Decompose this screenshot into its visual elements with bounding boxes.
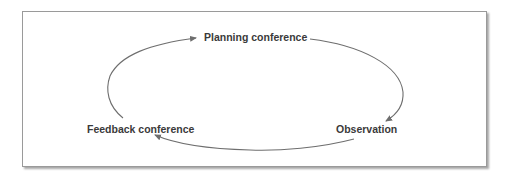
arrow-feedback-to-planning: [108, 38, 196, 118]
node-planning-conference: Planning conference: [204, 31, 307, 43]
cycle-arrows: [0, 0, 509, 180]
node-observation: Observation: [336, 123, 397, 135]
arrow-observation-to-feedback: [155, 135, 354, 150]
node-feedback-conference: Feedback conference: [87, 123, 194, 135]
arrow-planning-to-observation: [310, 39, 403, 121]
